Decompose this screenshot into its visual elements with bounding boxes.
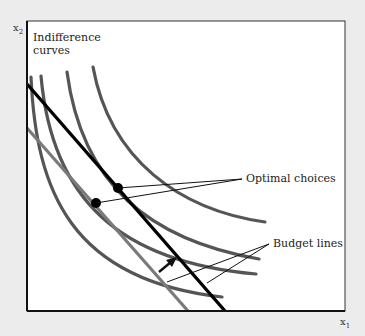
indifference-curves-label: Indifference curves [33,31,101,57]
indifference-curves-label-line2: curves [33,44,101,57]
x-axis-subscript: 1 [346,322,350,330]
budget-lines-label: Budget lines [273,237,343,250]
y-axis-subscript: 2 [19,28,23,36]
indifference-curves-label-line1: Indifference [33,31,101,44]
y-axis-label: x2 [13,21,23,39]
optimal-choices-label: Optimal choices [246,172,336,185]
indifference-curves-diagram: x2 Indifference curves Optimal choices B… [0,0,365,336]
x-axis-label: x1 [340,315,350,333]
